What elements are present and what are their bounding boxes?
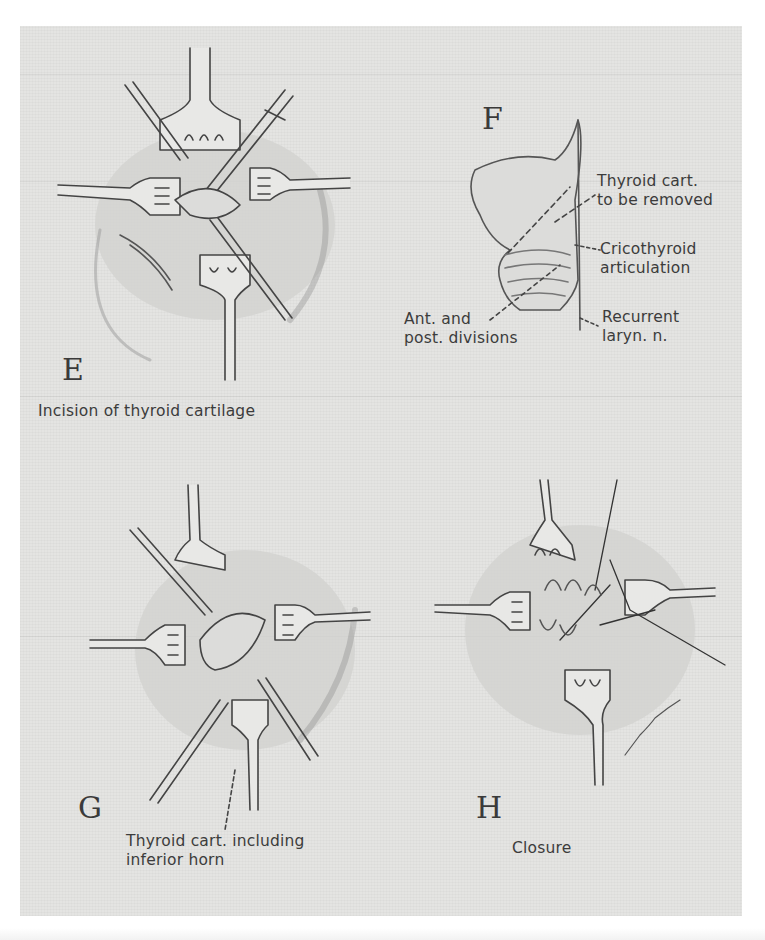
panel-f-letter: F (482, 104, 503, 134)
label-line: post. divisions (404, 329, 518, 348)
illustration-layer (0, 0, 765, 940)
label-line: Cricothyroid (600, 240, 697, 259)
panel-e-letter: E (62, 355, 84, 385)
panel-f-drawing (471, 120, 600, 330)
panel-f-label-cricothyroid: Cricothyroid articulation (600, 240, 697, 278)
label-line: articulation (600, 259, 697, 278)
label-line: Recurrent (602, 308, 679, 327)
panel-e-drawing (58, 48, 350, 380)
panel-h-letter: H (476, 793, 502, 823)
label-line: Ant. and (404, 310, 518, 329)
panel-f-label-ant-post-divisions: Ant. and post. divisions (404, 310, 518, 348)
label-line: laryn. n. (602, 327, 679, 346)
panel-f-label-thyroid-cart: Thyroid cart. to be removed (597, 172, 713, 210)
panel-e-caption: Incision of thyroid cartilage (38, 402, 255, 421)
label-line: to be removed (597, 191, 713, 210)
panel-g-label-thyroid-cart-inferior-horn: Thyroid cart. including inferior horn (126, 832, 305, 870)
panel-h-caption: Closure (512, 839, 571, 858)
panel-g-drawing (90, 485, 370, 830)
panel-g-letter: G (78, 793, 102, 823)
panel-f-label-recurrent-laryn: Recurrent laryn. n. (602, 308, 679, 346)
page-bottom-edge (0, 928, 765, 940)
label-line: inferior horn (126, 851, 305, 870)
panel-h-drawing (435, 480, 725, 785)
label-line: Thyroid cart. (597, 172, 713, 191)
label-line: Thyroid cart. including (126, 832, 305, 851)
